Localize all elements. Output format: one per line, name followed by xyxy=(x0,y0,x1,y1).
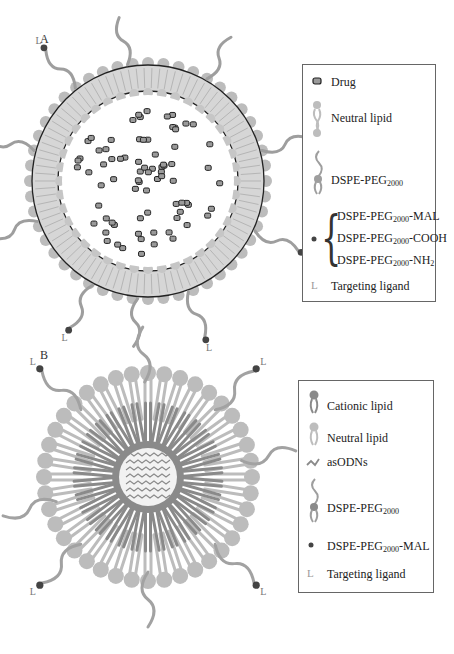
maleimide-dot-icon xyxy=(305,537,325,557)
dspe-peg-icon xyxy=(305,477,325,529)
svg-text:L: L xyxy=(30,356,36,367)
legend-item-dspe-peg-b: DSPE-PEG2000 xyxy=(299,477,433,529)
cationic-lipid-icon xyxy=(305,389,325,419)
legend-label-cationic-lipid: Cationic lipid xyxy=(327,399,393,413)
svg-text:L: L xyxy=(61,332,67,343)
legend-label-asodns: asODNs xyxy=(327,455,368,469)
legend-label-dspe-peg-mal-b: DSPE-PEG2000-MAL xyxy=(327,539,430,557)
legend-label-dspe-peg-b: DSPE-PEG2000 xyxy=(327,501,399,519)
svg-text:L: L xyxy=(30,586,36,597)
legend-label-targeting-ligand: Targeting ligand xyxy=(331,279,410,293)
svg-text:L: L xyxy=(35,35,41,46)
legend-item-asodns: asODNs xyxy=(299,453,433,473)
legend-item-cationic-lipid: Cationic lipid xyxy=(299,389,433,419)
legend-label-dspe-peg: DSPE-PEG2000 xyxy=(331,173,403,191)
dspe-peg-icon xyxy=(309,149,329,201)
legend-label-dspe-peg-mal: DSPE-PEG2000-MAL xyxy=(337,209,440,227)
legend-item-targeting-ligand: L Targeting ligand xyxy=(303,277,435,297)
asodn-icon xyxy=(305,453,325,473)
liposome-figure-a: LLLLLL xyxy=(0,18,323,354)
legend-item-neutral-lipid-b: Neutral lipid xyxy=(299,421,433,451)
legend-label-drug: Drug xyxy=(331,75,356,89)
neutral-lipid-icon xyxy=(305,421,325,451)
legend-b: Cationic lipid Neutral lipid asODNs DSPE… xyxy=(298,380,434,593)
legend-label-targeting-ligand-b: Targeting ligand xyxy=(327,567,406,581)
svg-text:L: L xyxy=(260,356,266,367)
legend-a: Drug Neutral lipid DSPE-PEG2000 { DSPE-P… xyxy=(302,64,436,302)
targeting-ligand-icon: L xyxy=(311,279,331,299)
legend-item-peg-variants: { DSPE-PEG2000-MAL DSPE-PEG2000-COOH DSP… xyxy=(303,205,435,273)
targeting-ligand-icon: L xyxy=(307,567,327,587)
neutral-lipid-icon xyxy=(309,99,329,139)
drug-icon xyxy=(309,73,329,93)
lipoplex-figure-b: LLLL xyxy=(3,327,296,627)
legend-item-dspe-peg-mal: DSPE-PEG2000-MAL xyxy=(299,537,433,557)
legend-item-neutral-lipid: Neutral lipid xyxy=(303,99,435,139)
svg-text:L: L xyxy=(260,586,266,597)
svg-text:L: L xyxy=(206,342,212,353)
legend-item-drug: Drug xyxy=(303,73,435,93)
legend-label-dspe-peg-cooh: DSPE-PEG2000-COOH xyxy=(337,231,447,249)
legend-label-dspe-peg-nh2: DSPE-PEG2000-NH2 xyxy=(337,253,434,271)
legend-label-neutral-lipid-b: Neutral lipid xyxy=(327,431,388,445)
legend-label-neutral-lipid: Neutral lipid xyxy=(331,111,392,125)
legend-item-targeting-ligand-b: L Targeting ligand xyxy=(299,565,433,585)
legend-item-dspe-peg: DSPE-PEG2000 xyxy=(303,149,435,201)
